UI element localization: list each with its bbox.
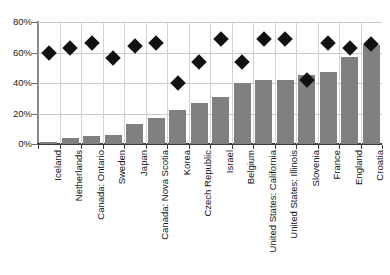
data-point-marker xyxy=(256,31,272,47)
bar xyxy=(105,135,122,144)
x-axis-tick-mark xyxy=(275,145,276,149)
bar xyxy=(62,138,79,144)
y-axis-tick-label: 80% xyxy=(2,17,32,27)
data-point-marker xyxy=(41,45,57,61)
x-axis-tick-mark xyxy=(382,145,383,149)
x-axis-label: Israel xyxy=(225,150,235,173)
gridline-vertical xyxy=(146,22,147,144)
chart-container: 0%20%40%60%80% IcelandNetherlandsCanada:… xyxy=(0,0,390,275)
gridline-vertical xyxy=(339,22,340,144)
data-point-marker xyxy=(277,31,293,47)
x-axis-label: Czech Republic xyxy=(203,150,213,217)
gridline-vertical xyxy=(60,22,61,144)
x-axis-label: Canada: Nova Scotia xyxy=(160,150,170,240)
bar xyxy=(126,124,143,144)
data-point-marker xyxy=(191,55,207,71)
gridline-vertical xyxy=(167,22,168,144)
x-axis-tick-mark xyxy=(232,145,233,149)
x-axis-tick-mark xyxy=(296,145,297,149)
y-axis-tick-label: 40% xyxy=(2,78,32,88)
gridline-vertical xyxy=(210,22,211,144)
data-point-marker xyxy=(170,75,186,91)
gridline-vertical xyxy=(275,22,276,144)
bar xyxy=(277,80,294,144)
x-axis-tick-mark xyxy=(38,145,39,149)
x-axis-label: France xyxy=(332,150,342,180)
data-point-marker xyxy=(320,36,336,52)
bar xyxy=(169,110,186,144)
gridline-vertical xyxy=(361,22,362,144)
bar xyxy=(341,57,358,144)
data-point-marker xyxy=(148,36,164,52)
gridline-vertical xyxy=(296,22,297,144)
x-axis-label: Slovenia xyxy=(311,150,321,186)
bar xyxy=(255,80,272,144)
y-axis-tick-label: 0% xyxy=(2,139,32,149)
bar xyxy=(40,142,57,144)
x-axis-tick-mark xyxy=(124,145,125,149)
x-axis-tick-mark xyxy=(210,145,211,149)
bar xyxy=(83,136,100,144)
x-axis-label: United States: Illinois xyxy=(289,150,299,239)
x-axis-label: England xyxy=(354,150,364,185)
bar xyxy=(212,97,229,144)
bar xyxy=(320,72,337,144)
x-axis-label: Iceland xyxy=(53,150,63,181)
x-axis-label: United States: California xyxy=(268,150,278,252)
bar xyxy=(234,83,251,144)
data-point-marker xyxy=(213,31,229,47)
x-axis-label: Korea xyxy=(182,150,192,175)
x-axis-tick-mark xyxy=(103,145,104,149)
bar xyxy=(191,103,208,144)
x-axis-tick-mark xyxy=(318,145,319,149)
y-axis-tick-label: 60% xyxy=(2,48,32,58)
bar xyxy=(363,45,380,144)
data-point-marker xyxy=(234,54,250,70)
x-axis-tick-mark xyxy=(146,145,147,149)
x-axis-label: Canada: Ontario xyxy=(96,150,106,220)
x-axis-tick-mark xyxy=(253,145,254,149)
x-axis-tick-mark xyxy=(167,145,168,149)
clipped-top-edge xyxy=(0,0,390,7)
gridline-vertical xyxy=(253,22,254,144)
gridline-vertical xyxy=(124,22,125,144)
gridline-vertical xyxy=(318,22,319,144)
gridline-vertical xyxy=(189,22,190,144)
x-axis-tick-mark xyxy=(60,145,61,149)
gridline-vertical xyxy=(103,22,104,144)
x-axis-label: Belgium xyxy=(246,150,256,184)
x-axis-label: Netherlands xyxy=(74,150,84,201)
plot-area xyxy=(38,22,382,144)
x-axis-tick-mark xyxy=(189,145,190,149)
gridline-vertical xyxy=(81,22,82,144)
y-axis-tick-label: 20% xyxy=(2,109,32,119)
data-point-marker xyxy=(84,36,100,52)
bar xyxy=(148,118,165,144)
x-axis-label: Japan xyxy=(139,150,149,176)
x-axis-tick-mark xyxy=(81,145,82,149)
x-axis-tick-mark xyxy=(361,145,362,149)
x-axis-label: Sweden xyxy=(117,150,127,184)
gridline-vertical xyxy=(232,22,233,144)
x-axis-label: Croatia xyxy=(375,150,385,181)
x-axis-tick-mark xyxy=(339,145,340,149)
